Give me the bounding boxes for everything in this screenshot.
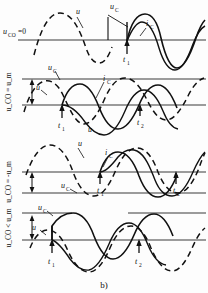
svg-text:1: 1 [62,126,65,132]
svg-text:2: 2 [141,123,144,129]
svg-text:C: C [43,208,47,214]
svg-text:C: C [150,24,154,30]
svg-text:i: i [105,148,107,157]
svg-text:C: C [107,79,111,85]
svg-text:u: u [110,2,114,11]
panel-1-condition-sub: CO [8,32,16,38]
svg-text:u_CO < u_m: u_CO < u_m [4,208,13,247]
panel-3-condition-label: u_CO = -u_m [4,161,13,203]
panel-1-condition-main: u [3,27,7,36]
svg-text:i: i [103,74,105,83]
svg-text:u_CO = -u_m: u_CO = -u_m [4,161,13,203]
panel-1-condition-rest: =0 [18,27,26,36]
svg-text:u: u [38,203,42,212]
figure-background [0,0,208,293]
figure-caption: b) [100,280,108,290]
svg-text:2: 2 [177,191,180,197]
svg-text:i: i [146,19,148,28]
panel-4-u-label: u [32,223,36,232]
svg-text:2: 2 [139,262,142,268]
svg-text:1: 1 [52,262,55,268]
svg-text:u: u [61,181,65,190]
svg-text:u_CO = u_m: u_CO = u_m [4,72,13,111]
svg-text:1: 1 [101,191,104,197]
panel-4-condition-label: u_CO < u_m [4,208,13,247]
panel-2-condition-label: u_CO = u_m [4,72,13,111]
svg-text:C: C [66,186,70,192]
svg-text:C: C [109,153,113,159]
svg-text:C: C [115,7,119,13]
svg-text:1: 1 [127,60,130,66]
panel-3-u-label: u [78,139,82,148]
panel-2-u-label: u [36,83,40,92]
panel-2-u-bottom-label: u [88,125,92,134]
svg-text:C: C [53,68,57,74]
svg-text:u: u [48,63,52,72]
panel-1-u-label: u [76,7,80,16]
waveform-figure: u CO =0 u u C i C t 1 [0,0,208,293]
